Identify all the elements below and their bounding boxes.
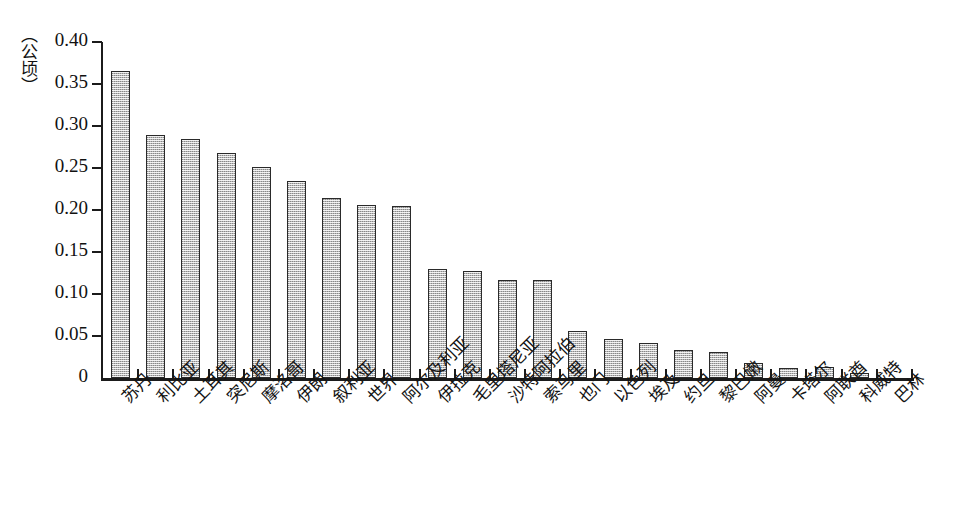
y-axis-tick-mark xyxy=(92,335,102,337)
y-axis-tick-label: 0.10 xyxy=(2,281,88,303)
y-axis-tick-label: 0 xyxy=(2,365,88,387)
y-axis-tick-mark xyxy=(92,41,102,43)
bar xyxy=(111,71,130,378)
bar-chart: （公顷） 0.400.350.300.250.200.150.100.050 苏… xyxy=(0,0,958,506)
bar xyxy=(357,205,376,378)
y-axis-tick-label: 0.15 xyxy=(2,239,88,261)
y-axis-tick-mark xyxy=(92,83,102,85)
y-axis-tick-label: 0.40 xyxy=(2,29,88,51)
bar xyxy=(217,153,236,378)
bar xyxy=(392,206,411,378)
y-axis-tick-label: 0.20 xyxy=(2,197,88,219)
bar xyxy=(322,198,341,378)
bar xyxy=(709,352,728,378)
y-axis-tick-label: 0.30 xyxy=(2,113,88,135)
y-axis-tick-mark xyxy=(92,125,102,127)
y-axis-tick-mark xyxy=(92,209,102,211)
y-axis-line xyxy=(101,42,103,380)
bar xyxy=(146,135,165,378)
bar xyxy=(181,139,200,378)
bar xyxy=(252,167,271,378)
y-axis-tick-mark xyxy=(92,251,102,253)
y-axis-tick-label: 0.35 xyxy=(2,71,88,93)
y-axis-tick-label: 0.05 xyxy=(2,323,88,345)
bar xyxy=(604,339,623,378)
bar xyxy=(287,181,306,378)
y-axis-tick-label: 0.25 xyxy=(2,155,88,177)
y-axis-tick-mark xyxy=(92,167,102,169)
bar xyxy=(674,350,693,378)
y-axis-tick-mark xyxy=(92,293,102,295)
